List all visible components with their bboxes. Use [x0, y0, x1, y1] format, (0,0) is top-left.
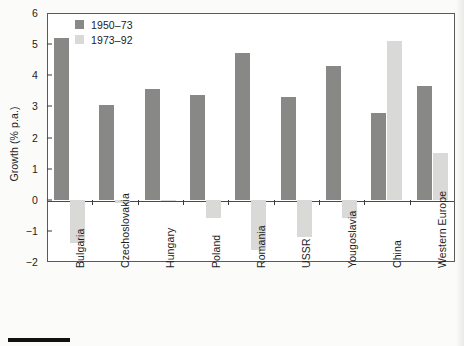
- x-tick-label: China: [391, 240, 403, 268]
- legend-label: 1973–92: [91, 34, 133, 46]
- y-tick-label: 0: [32, 194, 38, 206]
- x-tick-label: Yougoslavia: [346, 211, 358, 268]
- x-tick-mark: [92, 200, 93, 205]
- x-tick-mark: [228, 200, 229, 205]
- y-tick-label: 6: [32, 7, 38, 19]
- x-tick-label: Czechoslovakia: [119, 193, 131, 268]
- scan-artifact-mark: [8, 338, 70, 342]
- x-tick-mark: [410, 200, 411, 205]
- bar-group: [274, 13, 319, 262]
- bars-layer: [47, 13, 455, 262]
- legend-label: 1950–73: [91, 19, 133, 31]
- bar-group: [364, 13, 409, 262]
- bar-series2: [206, 200, 221, 219]
- x-tick-label: Romania: [255, 225, 267, 268]
- y-tick-label: 1: [32, 163, 38, 175]
- x-tick-label: USSR: [300, 238, 312, 268]
- bar-series1: [54, 38, 69, 200]
- bar-series1: [235, 53, 250, 199]
- bar-series1: [417, 86, 432, 200]
- legend-swatch-icon: [75, 35, 84, 44]
- bar-group: [138, 13, 183, 262]
- x-tick-label: Western Europe: [436, 191, 448, 268]
- legend-swatch-icon: [75, 20, 84, 29]
- legend-item: 1973–92: [75, 33, 133, 46]
- bar-series1: [326, 66, 341, 200]
- bar-series1: [371, 113, 386, 200]
- x-tick-mark: [183, 200, 184, 205]
- x-tick-mark: [364, 200, 365, 205]
- y-tick-label: 4: [32, 69, 38, 81]
- bar-chart-figure: 6543210−1−2 Growth (% p.a.) 1950–731973–…: [0, 0, 464, 346]
- y-tick-label: −1: [26, 225, 38, 237]
- x-tick-label: Poland: [210, 235, 222, 268]
- bar-series1: [145, 89, 160, 199]
- bar-group: [47, 13, 92, 262]
- bar-group: [183, 13, 228, 262]
- bar-series2: [387, 41, 402, 200]
- bar-group: [410, 13, 455, 262]
- y-axis-title: Growth (% p.a.): [8, 84, 20, 204]
- x-tick-label: Bulgaria: [74, 229, 86, 268]
- bar-series2: [161, 200, 176, 201]
- y-tick-label: 2: [32, 132, 38, 144]
- x-tick-mark: [274, 200, 275, 205]
- x-tick-label: Hungary: [164, 228, 176, 268]
- x-tick-mark: [319, 200, 320, 205]
- y-tick-label: 3: [32, 100, 38, 112]
- chart-legend: 1950–731973–92: [75, 18, 133, 48]
- y-tick-label: 5: [32, 38, 38, 50]
- bar-series2: [297, 200, 312, 237]
- legend-item: 1950–73: [75, 18, 133, 31]
- x-tick-mark: [138, 200, 139, 205]
- page-edge-shadow: [456, 0, 464, 346]
- y-tick-label: −2: [26, 256, 38, 268]
- bar-series1: [99, 105, 114, 200]
- bar-series1: [281, 97, 296, 200]
- bar-series1: [190, 95, 205, 199]
